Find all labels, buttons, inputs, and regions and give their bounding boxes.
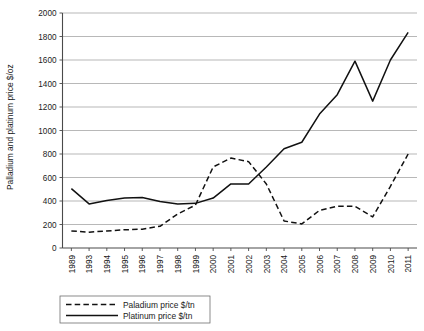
x-tick-label: 2004 <box>280 255 289 274</box>
x-tick-label: 2008 <box>351 255 360 274</box>
data-series-group <box>71 32 408 232</box>
x-tick-label: 1989 <box>68 255 77 274</box>
x-tick-label: 2006 <box>316 255 325 274</box>
line-chart: 0200400600800100012001400160018002000 19… <box>0 0 424 331</box>
y-tick-label: 400 <box>43 197 57 206</box>
y-tick-label: 800 <box>43 150 57 159</box>
x-tick-label: 2002 <box>245 255 254 274</box>
x-tick-label: 1996 <box>138 255 147 274</box>
y-axis-title: Palladium and platinum price $/oz <box>5 64 15 190</box>
y-tick-label: 1200 <box>38 103 57 112</box>
series-line-platinum <box>71 32 408 204</box>
x-tick-label: 1998 <box>174 255 183 274</box>
chart-container: 0200400600800100012001400160018002000 19… <box>0 0 424 331</box>
x-tick-label: 2000 <box>209 255 218 274</box>
legend-label-palladium: Paladium price $/tn <box>123 300 195 310</box>
x-tick-label: 1997 <box>156 255 165 274</box>
x-tick-label: 2010 <box>387 255 396 274</box>
x-tick-label: 1993 <box>85 255 94 274</box>
x-tick-label: 2011 <box>404 255 413 273</box>
x-tick-label: 2009 <box>369 255 378 274</box>
legend-label-platinum: Platinum price $/tn <box>123 311 193 321</box>
x-tick-label: 1999 <box>192 255 201 274</box>
x-tick-label: 1994 <box>103 255 112 274</box>
y-tick-label: 0 <box>52 244 57 253</box>
x-tick-label: 2001 <box>227 255 236 274</box>
x-tick-label: 2007 <box>333 255 342 274</box>
x-axis-tick-labels: 1989199319941995199619971998199920002001… <box>68 255 414 274</box>
x-tick-label: 1995 <box>121 255 130 274</box>
chart-legend: Paladium price $/tn Platinum price $/tn <box>60 296 210 323</box>
y-tick-label: 200 <box>43 221 57 230</box>
y-axis-tick-labels: 0200400600800100012001400160018002000 <box>38 9 57 253</box>
x-tick-label: 2003 <box>263 255 272 274</box>
y-tick-label: 1000 <box>38 127 57 136</box>
y-tick-label: 2000 <box>38 9 57 18</box>
y-tick-label: 1800 <box>38 33 57 42</box>
series-line-palladium <box>71 154 408 232</box>
y-tick-label: 1600 <box>38 56 57 65</box>
y-tick-label: 1400 <box>38 80 57 89</box>
gridlines-group <box>60 13 418 248</box>
y-tick-label: 600 <box>43 174 57 183</box>
x-tick-label: 2005 <box>298 255 307 274</box>
